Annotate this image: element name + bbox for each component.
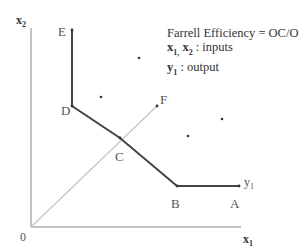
point-B [176,185,179,188]
point-C [119,137,122,140]
label-F: F [160,93,167,106]
farrell-efficiency-diagram: x2 x1 0 E D C B A F y1 Farrell Efficienc… [0,0,299,249]
ray-OF [31,106,157,227]
inefficient-dmu-dot [221,118,224,121]
label-B: B [171,197,180,210]
isoquant-label: y1 [244,176,254,191]
label-D: D [61,104,70,117]
inefficient-dmu-dot [100,96,103,99]
legend-efficiency-formula: Farrell Efficiency = OC/OF [167,26,299,40]
label-C: C [115,150,124,163]
legend-output: y1 : output [167,60,299,80]
point-F [156,105,159,108]
inefficient-dmu-dot [138,57,141,60]
x-axis-label: x1 [243,233,253,248]
legend-inputs: x1, x2 : inputs [167,40,299,60]
point-E [71,29,74,32]
label-A: A [230,197,239,210]
inefficient-dmu-dot [187,135,190,138]
point-D [71,105,74,108]
y-axis-label: x2 [16,14,26,29]
origin-label: 0 [20,231,26,243]
legend: Farrell Efficiency = OC/OF x1, x2 : inpu… [167,26,299,79]
label-E: E [58,25,66,38]
point-A [238,185,241,188]
